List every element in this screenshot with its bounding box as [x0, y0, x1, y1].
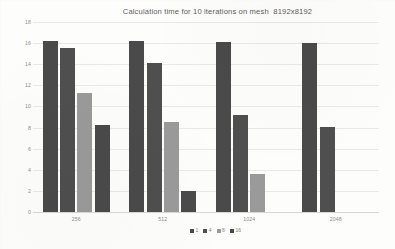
bar-chart: Calculation time for 10 iterations on me… [0, 0, 395, 249]
y-tick-label: 14 [25, 61, 31, 67]
bar [233, 115, 248, 212]
bar [302, 43, 317, 212]
bar [320, 127, 335, 213]
bar [250, 174, 265, 212]
bar-group [129, 22, 196, 212]
y-tick-label: 16 [25, 40, 31, 46]
x-tick-label: 256 [72, 216, 81, 222]
y-tick-label: 10 [25, 103, 31, 109]
bars-layer [33, 22, 379, 212]
y-axis: 024681012141618 [12, 22, 31, 212]
bar [129, 41, 144, 212]
legend-label: 4 [209, 228, 212, 233]
legend-swatch-icon [190, 229, 194, 233]
legend-item[interactable]: 4 [203, 228, 211, 233]
legend-item[interactable]: 8 [217, 228, 225, 233]
bar [181, 191, 196, 212]
x-tick-label: 512 [158, 216, 167, 222]
y-tick-label: 4 [28, 167, 31, 173]
chart-title: Calculation time for 10 iterations on me… [0, 7, 395, 16]
bar [43, 41, 58, 212]
x-tick-label: 2048 [330, 216, 342, 222]
bar-group [216, 22, 283, 212]
legend-label: 1 [196, 228, 199, 233]
legend-swatch-icon [230, 229, 234, 233]
y-tick-label: 18 [25, 19, 31, 25]
legend-item[interactable]: 16 [230, 228, 241, 233]
bar [77, 93, 92, 212]
y-tick-label: 0 [28, 209, 31, 215]
legend-label: 8 [222, 228, 225, 233]
y-tick-label: 12 [25, 82, 31, 88]
bar [147, 63, 162, 212]
legend-swatch-icon [203, 229, 207, 233]
legend-swatch-icon [217, 229, 221, 233]
bar [164, 122, 179, 212]
chart-legend: 14816 [0, 228, 395, 233]
bar-group [302, 22, 369, 212]
x-axis: 25651210242048 [33, 214, 379, 226]
bar-group [43, 22, 110, 212]
legend-label: 16 [235, 228, 241, 233]
axis-baseline [33, 212, 379, 213]
bar [95, 125, 110, 212]
y-tick-label: 6 [28, 146, 31, 152]
y-tick-label: 2 [28, 188, 31, 194]
legend-item[interactable]: 1 [190, 228, 198, 233]
bar [60, 48, 75, 212]
y-tick-label: 8 [28, 125, 31, 131]
bar [216, 42, 231, 212]
x-tick-label: 1024 [243, 216, 255, 222]
